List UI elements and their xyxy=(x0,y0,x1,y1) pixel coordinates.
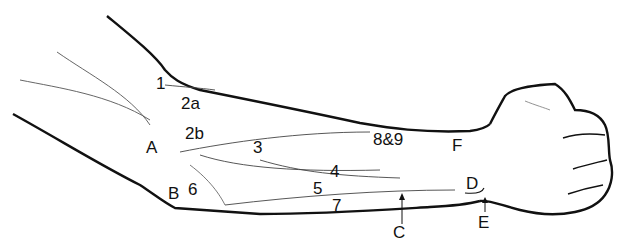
arm-anatomy-diagram: 1 2a 2b A 3 8&9 F 4 D 5 B 6 7 C E xyxy=(0,0,627,250)
label-F: F xyxy=(452,137,462,154)
arm-drawing xyxy=(0,0,627,250)
label-E: E xyxy=(478,214,489,231)
fist-outline xyxy=(480,84,612,214)
label-C: C xyxy=(393,224,405,241)
label-D: D xyxy=(466,175,478,192)
label-4: 4 xyxy=(330,163,339,180)
label-3: 3 xyxy=(253,139,262,156)
label-5: 5 xyxy=(313,180,322,197)
label-2a: 2a xyxy=(181,95,200,112)
label-2b: 2b xyxy=(185,125,204,142)
label-B: B xyxy=(168,185,179,202)
label-A: A xyxy=(146,139,157,156)
label-1: 1 xyxy=(156,75,165,92)
label-7: 7 xyxy=(332,197,341,214)
label-8-and-9: 8&9 xyxy=(373,131,403,148)
label-6: 6 xyxy=(188,181,197,198)
